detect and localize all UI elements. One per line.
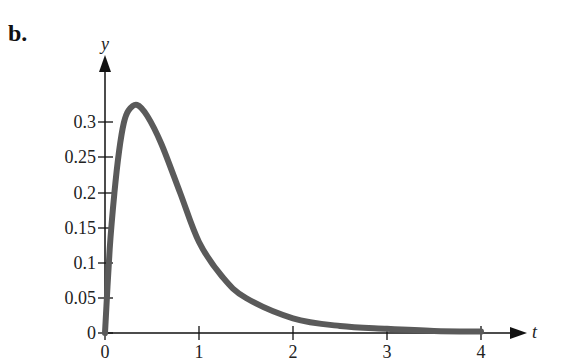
y-tick-label: 0.1 bbox=[74, 253, 97, 273]
x-tick-label: 4 bbox=[477, 342, 486, 361]
y-tick-label: 0.2 bbox=[74, 183, 97, 203]
x-tick-label: 2 bbox=[289, 342, 298, 361]
y-tick-label: 0 bbox=[87, 323, 96, 343]
x-tick-label: 1 bbox=[195, 342, 204, 361]
y-tick-label: 0.15 bbox=[65, 218, 97, 238]
x-axis-label: t bbox=[532, 322, 538, 342]
x-tick-label: 0 bbox=[101, 342, 110, 361]
x-tick-label: 3 bbox=[383, 342, 392, 361]
y-axis-arrow-icon bbox=[99, 55, 111, 72]
y-tick-label: 0.3 bbox=[74, 112, 97, 132]
chart: y t 0 0.05 0.1 0.15 0.2 0.25 0.3 0 1 2 3… bbox=[0, 0, 566, 361]
x-axis-arrow-icon bbox=[510, 327, 527, 339]
data-curve bbox=[105, 105, 481, 333]
y-tick-label: 0.25 bbox=[65, 147, 97, 167]
y-axis-label: y bbox=[99, 34, 109, 54]
y-tick-label: 0.05 bbox=[65, 288, 97, 308]
